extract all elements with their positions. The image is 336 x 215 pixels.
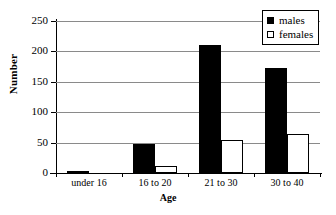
bar-chart: Number 050100150200250 under 1616 to 202…	[0, 0, 336, 215]
x-tick-label: 21 to 30	[188, 177, 254, 189]
chart-legend: males females	[262, 10, 319, 45]
y-tick-label: 250	[0, 15, 48, 26]
bar-males-under-16	[67, 171, 89, 173]
legend-item-males: males	[267, 13, 313, 27]
y-tick-label: 150	[0, 76, 48, 87]
legend-swatch-females-icon	[267, 31, 274, 38]
bar-females-30-to-40	[287, 134, 309, 173]
x-tick-label: 30 to 40	[254, 177, 320, 189]
y-tick-label: 100	[0, 106, 48, 117]
x-axis-title: Age	[0, 192, 336, 203]
x-tick-label: 16 to 20	[122, 177, 188, 189]
legend-label-males: males	[279, 15, 305, 26]
bar-females-21-to-30	[221, 140, 243, 173]
bar-males-30-to-40	[265, 68, 287, 173]
bar-males-21-to-30	[199, 45, 221, 173]
y-tick-label: 50	[0, 137, 48, 148]
bar-males-16-to-20	[133, 144, 155, 173]
x-tick-label: under 16	[56, 177, 122, 189]
gridline	[56, 51, 320, 52]
legend-item-females: females	[267, 27, 313, 41]
x-axis-line	[50, 173, 322, 174]
bar-females-16-to-20	[155, 166, 177, 173]
legend-swatch-males-icon	[267, 17, 274, 24]
y-tick-label: 200	[0, 45, 48, 56]
legend-label-females: females	[279, 29, 313, 40]
y-tick-label: 0	[0, 167, 48, 178]
x-tick-mark	[320, 173, 321, 177]
